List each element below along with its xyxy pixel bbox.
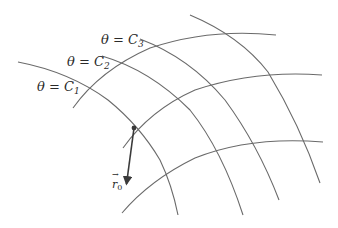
subscript: 3 [138,39,144,49]
position-vector-arrow [127,128,135,184]
arc-curve-2 [123,74,322,148]
constant-symbol: C [94,54,104,69]
equals-sign: = [75,54,94,69]
constant-symbol: C [64,79,74,94]
label-theta-c2: θ = C2 [67,55,110,71]
equals-sign: = [109,32,128,47]
theta-curve-c4 [190,15,320,183]
theta-symbol: θ [101,32,109,47]
subscript: 1 [74,86,80,96]
coordinate-curves-diagram [0,0,338,228]
reference-point [132,126,137,131]
theta-curve-c3 [140,39,279,200]
equals-sign: = [45,79,64,94]
label-theta-c3: θ = C3 [101,33,144,49]
subscript: 0 [117,183,122,192]
subscript: 2 [104,61,110,71]
theta-symbol: θ [37,79,45,94]
vector-r-symbol: r [112,179,117,190]
label-theta-c1: θ = C1 [37,80,80,96]
theta-symbol: θ [67,54,75,69]
label-r0-vector: r0 [112,179,122,192]
constant-symbol: C [128,32,138,47]
arc-curve-3 [122,141,323,213]
